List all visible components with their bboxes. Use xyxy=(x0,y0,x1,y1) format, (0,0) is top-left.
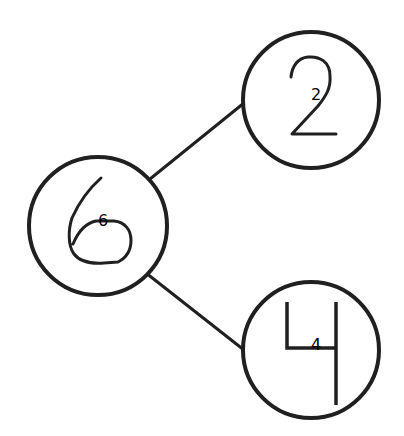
edge-6-to-2 xyxy=(150,103,244,179)
node-4-label: 4 xyxy=(311,335,321,354)
node-2: 2 xyxy=(243,32,379,168)
node-6-label: 6 xyxy=(98,211,108,230)
tree-diagram: 6 2 4 xyxy=(0,0,404,436)
node-4: 4 xyxy=(243,282,379,418)
node-6: 6 xyxy=(29,157,167,295)
edge-6-to-4 xyxy=(146,273,244,350)
node-2-label: 2 xyxy=(311,85,321,104)
